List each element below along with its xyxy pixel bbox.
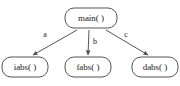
edges-group: a b c (33, 30, 148, 55)
call-graph-diagram: a b c main( ) iabs( ) fabs( ) dabs( (0, 0, 180, 86)
node-fabs[interactable]: fabs( ) (65, 57, 111, 77)
node-fabs-label: fabs( ) (76, 62, 99, 72)
edge-label-b: b (93, 37, 97, 46)
nodes-group: main( ) iabs( ) fabs( ) dabs( ) (2, 8, 178, 77)
node-dabs-label: dabs( ) (143, 62, 168, 72)
graph-canvas: a b c main( ) iabs( ) fabs( ) dabs( (0, 0, 180, 86)
node-dabs[interactable]: dabs( ) (132, 57, 178, 77)
node-main[interactable]: main( ) (65, 8, 117, 28)
node-main-label: main( ) (78, 13, 104, 23)
edge-main-to-fabs (88, 30, 89, 55)
edge-main-to-iabs (33, 30, 77, 55)
node-iabs[interactable]: iabs( ) (2, 57, 48, 77)
node-iabs-label: iabs( ) (14, 62, 37, 72)
edge-label-c: c (124, 30, 128, 39)
edge-label-a: a (43, 30, 47, 39)
